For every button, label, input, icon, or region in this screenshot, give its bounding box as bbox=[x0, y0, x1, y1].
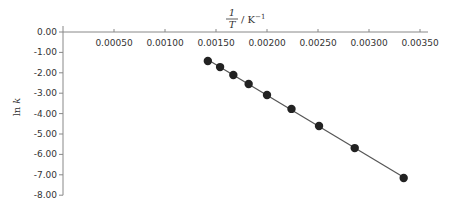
data-point bbox=[315, 122, 323, 130]
data-point bbox=[204, 57, 212, 65]
data-point bbox=[351, 144, 359, 152]
data-points bbox=[204, 57, 408, 182]
x-axis-title: 1 T / K−1 bbox=[226, 7, 265, 30]
x-title-numerator: 1 bbox=[229, 7, 235, 18]
data-point bbox=[263, 91, 271, 99]
x-tick-label: 0.00300 bbox=[350, 38, 387, 48]
y-tick-label: -5.00 bbox=[34, 129, 58, 139]
x-title-exponent: −1 bbox=[255, 13, 265, 21]
y-tick-label: -6.00 bbox=[34, 149, 58, 159]
trendline bbox=[208, 60, 404, 178]
x-tick-label: 0.00100 bbox=[146, 38, 183, 48]
y-axis-title: lnk bbox=[11, 98, 22, 117]
x-title-denominator: T bbox=[229, 19, 237, 30]
data-point bbox=[287, 105, 295, 113]
y-axis: 0.00-1.00-2.00-3.00-4.00-5.00-6.00-7.00-… bbox=[34, 26, 63, 200]
x-axis: 0.000500.001000.001500.002000.002500.003… bbox=[63, 29, 439, 48]
y-tick-label: 0.00 bbox=[37, 27, 57, 37]
y-tick-label: -8.00 bbox=[34, 190, 58, 200]
data-point bbox=[244, 80, 252, 88]
y-title-ln: ln bbox=[11, 106, 22, 116]
x-tick-label: 0.00250 bbox=[299, 38, 336, 48]
y-tick-label: -4.00 bbox=[34, 109, 58, 119]
data-point bbox=[229, 71, 237, 79]
x-title-unit-text: / K bbox=[241, 14, 256, 25]
x-tick-label: 0.00150 bbox=[197, 38, 234, 48]
y-tick-label: -1.00 bbox=[34, 47, 58, 57]
x-tick-label: 0.00350 bbox=[401, 38, 438, 48]
data-point bbox=[216, 63, 224, 71]
data-point bbox=[399, 174, 407, 182]
y-title-k: k bbox=[11, 98, 22, 104]
y-tick-label: -7.00 bbox=[34, 170, 58, 180]
y-tick-label: -3.00 bbox=[34, 88, 58, 98]
svg-text:lnk: lnk bbox=[11, 98, 22, 117]
y-tick-label: -2.00 bbox=[34, 68, 58, 78]
x-title-unit: / K−1 bbox=[241, 13, 265, 25]
x-tick-label: 0.00050 bbox=[95, 38, 132, 48]
arrhenius-plot: 0.00-1.00-2.00-3.00-4.00-5.00-6.00-7.00-… bbox=[0, 0, 453, 212]
x-tick-label: 0.00200 bbox=[248, 38, 285, 48]
